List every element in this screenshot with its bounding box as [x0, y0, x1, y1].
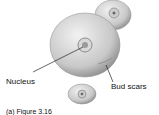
caption: (a) Figure 3.16	[6, 108, 52, 115]
nucleus-label: Nucleus	[6, 77, 35, 86]
bud-scars-label: Bud scars	[111, 82, 147, 91]
small-cell	[68, 84, 96, 104]
mother-cell	[50, 13, 120, 77]
yeast-diagram	[0, 0, 159, 115]
